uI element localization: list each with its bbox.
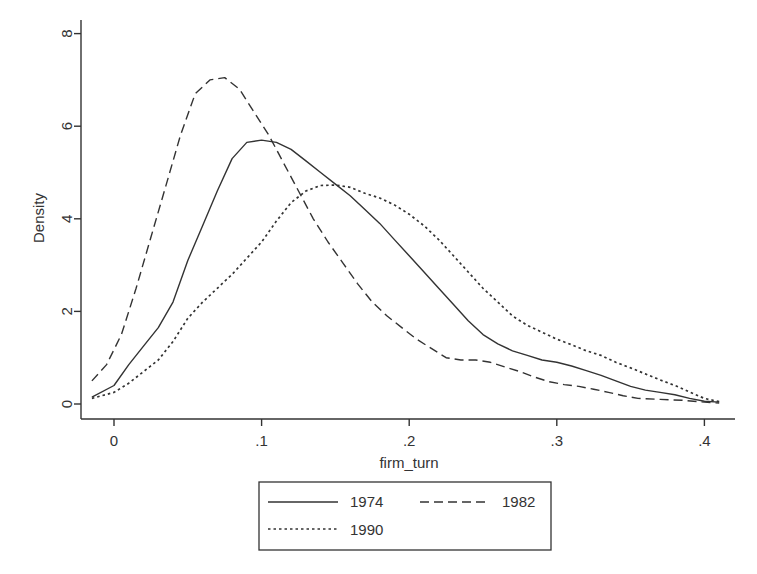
x-axis: 0.1.2.3.4 [81, 419, 735, 449]
y-tick-label: 0 [58, 400, 75, 408]
x-axis-title: firm_turn [379, 454, 438, 471]
legend-label-1990: 1990 [350, 521, 383, 538]
x-tick-label: 0 [110, 432, 118, 449]
series-line-1974 [92, 140, 719, 402]
density-chart: 02468 0.1.2.3.4 Density firm_turn 1974 1… [0, 0, 757, 574]
y-tick-label: 8 [58, 29, 75, 37]
legend-label-1982: 1982 [502, 493, 535, 510]
y-tick-label: 4 [58, 215, 75, 223]
series-line-1990 [92, 185, 719, 402]
x-tick-label: .2 [403, 432, 416, 449]
legend-label-1974: 1974 [350, 493, 383, 510]
y-tick-label: 2 [58, 307, 75, 315]
y-axis-title: Density [30, 192, 47, 243]
x-tick-label: .1 [255, 432, 268, 449]
plot-lines [92, 78, 719, 404]
series-line-1982 [92, 78, 719, 404]
y-axis: 02468 [58, 20, 82, 419]
x-tick-label: .4 [698, 432, 711, 449]
y-tick-label: 6 [58, 122, 75, 130]
x-tick-label: .3 [551, 432, 564, 449]
legend: 1974 1982 1990 [259, 482, 551, 550]
